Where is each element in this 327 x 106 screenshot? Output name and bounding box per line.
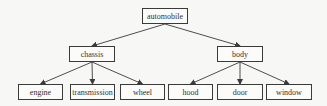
node-chassis: chassis: [69, 46, 115, 62]
edge-body-hood: [191, 62, 241, 84]
edge-automobile-body: [165, 24, 240, 46]
node-automobile: automobile: [142, 8, 188, 24]
node-hood: hood: [168, 84, 213, 100]
edge-chassis-wheel: [92, 62, 143, 84]
tree-diagram: automobile chassis body engine transmiss…: [0, 0, 327, 106]
node-body: body: [217, 46, 263, 62]
node-wheel: wheel: [120, 84, 165, 100]
edge-body-window: [240, 62, 289, 84]
node-window: window: [266, 84, 312, 100]
edge-chassis-transmission: [92, 62, 93, 84]
edge-automobile-chassis: [92, 24, 165, 46]
node-engine: engine: [18, 84, 63, 100]
edge-chassis-engine: [41, 62, 93, 84]
node-door: door: [217, 84, 263, 100]
node-transmission: transmission: [70, 84, 115, 100]
